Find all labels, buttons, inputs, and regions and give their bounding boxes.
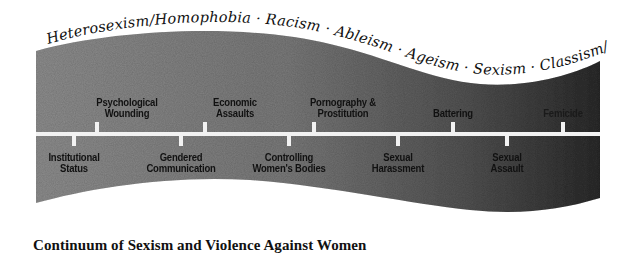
label-controlling-womens-bodies: Controlling Women's Bodies — [229, 152, 349, 175]
tick-above — [561, 122, 565, 133]
label-institutional-status: Institutional Status — [24, 152, 124, 175]
tick-below — [287, 135, 291, 146]
label-battering: Battering — [413, 108, 493, 120]
tick-above — [95, 122, 99, 133]
tick-above — [312, 122, 316, 133]
tick-below — [505, 135, 509, 146]
tick-above — [451, 122, 455, 133]
label-sexual-assault: Sexual Assault — [467, 152, 547, 175]
gradient-band — [36, 31, 600, 212]
tick-below — [179, 135, 183, 146]
label-psychological-wounding: Psychological Wounding — [77, 97, 177, 120]
label-gendered-communication: Gendered Communication — [126, 152, 236, 175]
tick-below — [396, 135, 400, 146]
label-pornography-prostitution: Pornography & Prostitution — [283, 97, 403, 120]
tick-above — [203, 122, 207, 133]
continuum-diagram: Heterosexism/Homophobia · Racism · Ablei… — [0, 0, 623, 272]
tick-below — [72, 135, 76, 146]
label-femicide: Femicide — [523, 108, 603, 120]
timeline-line — [36, 132, 600, 136]
label-sexual-harassment: Sexual Harassment — [348, 152, 448, 175]
wave-band — [0, 0, 623, 272]
diagram-title: Continuum of Sexism and Violence Against… — [33, 237, 367, 254]
label-economic-assaults: Economic Assaults — [185, 97, 285, 120]
